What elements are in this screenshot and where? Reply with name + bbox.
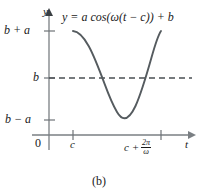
equation-annotation: y = a cos(ω(t − c)) + b xyxy=(62,11,174,23)
y-tick-label-b-plus-a: b + a xyxy=(4,24,30,36)
y-axis-group xyxy=(45,8,53,150)
fraction-denominator: ω xyxy=(141,147,151,156)
x-axis-label: t xyxy=(185,139,188,150)
x-axis-arrowhead xyxy=(188,131,196,139)
y-axis-label: y xyxy=(43,6,48,17)
period-fraction: 2π ω xyxy=(141,139,151,157)
figure-container: y t b + a b b − a 0 c c + 2π ω y = a cos… xyxy=(0,0,198,194)
figure-caption: (b) xyxy=(0,174,198,189)
fraction-numerator: 2π xyxy=(141,139,151,147)
x-axis-group xyxy=(32,131,196,139)
cosine-curve xyxy=(73,31,161,118)
origin-label: 0 xyxy=(35,137,41,149)
x-tick-label-c: c xyxy=(70,139,75,150)
x-tick-prefix: c + xyxy=(124,142,139,153)
y-tick-label-b: b xyxy=(33,71,39,83)
x-tick-label-c-plus-period: c + 2π ω xyxy=(124,139,151,157)
y-tick-label-b-minus-a: b − a xyxy=(5,113,31,125)
